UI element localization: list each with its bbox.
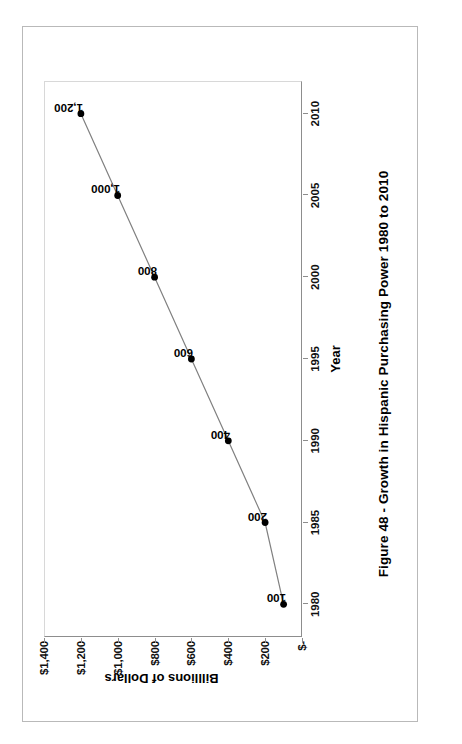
y-tick-mark <box>118 638 119 643</box>
data-point-label: 200 <box>248 511 267 523</box>
data-point-label: 1,000 <box>91 183 120 195</box>
rotated-figure-wrapper: $1,400$1,200$1,000$800$600$400$200$- 198… <box>24 29 416 719</box>
data-point-label: 100 <box>266 592 285 604</box>
data-point-label: 800 <box>137 265 156 277</box>
figure-block: $1,400$1,200$1,000$800$600$400$200$- 198… <box>24 29 416 719</box>
data-point-label: 600 <box>174 347 193 359</box>
x-tick-mark <box>303 522 308 523</box>
x-tick-mark <box>303 440 308 441</box>
x-tick-label: 1980 <box>309 581 321 627</box>
x-tick-label: 1990 <box>309 418 321 464</box>
x-tick-label: 1995 <box>309 336 321 382</box>
y-tick-mark <box>228 638 229 643</box>
x-tick-mark <box>303 603 308 604</box>
data-point-label: 1,200 <box>54 102 83 114</box>
x-axis-ticks: 1980198519901995200020052010 <box>303 81 329 637</box>
y-axis-title: Billlions of Dollars <box>33 671 291 686</box>
y-tick-mark <box>302 638 303 643</box>
data-point-label: 400 <box>211 429 230 441</box>
y-tick-mark <box>191 638 192 643</box>
y-tick-mark <box>81 638 82 643</box>
x-tick-mark <box>303 358 308 359</box>
scanned-page-sheet: $1,400$1,200$1,000$800$600$400$200$- 198… <box>22 26 418 722</box>
y-tick-mark <box>155 638 156 643</box>
x-axis-title: Year <box>328 81 343 637</box>
x-tick-mark <box>303 276 308 277</box>
plot-series-svg <box>44 81 302 637</box>
x-tick-label: 2005 <box>309 172 321 218</box>
x-tick-mark <box>303 194 308 195</box>
x-tick-mark <box>303 113 308 114</box>
x-tick-label: 1985 <box>309 500 321 546</box>
y-tick-mark <box>44 638 45 643</box>
y-tick-label: $- <box>296 641 308 707</box>
y-tick-mark <box>265 638 266 643</box>
figure-caption: Figure 48 - Growth in Hispanic Purchasin… <box>376 29 391 719</box>
x-tick-label: 2000 <box>309 254 321 300</box>
line-chart: $1,400$1,200$1,000$800$600$400$200$- 198… <box>28 71 358 711</box>
x-tick-label: 2010 <box>309 91 321 137</box>
